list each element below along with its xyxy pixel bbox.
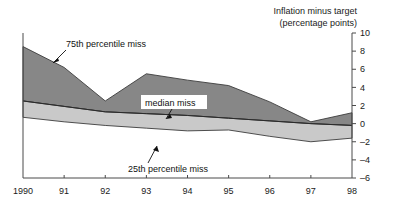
chart-bands [23,47,352,142]
y-tick-label--6: –6 [360,173,370,183]
inflation-miss-area-chart: 1086420–2–4–6 19909192939495969798 Infla… [0,0,393,208]
p25-annotation-group: 25th percentile miss [128,146,209,174]
median-annotation-label: median miss [145,98,196,108]
p75-annotation-group: 75th percentile miss [53,39,147,63]
y-tick-label-4: 4 [360,83,365,93]
x-tick-label-91: 91 [59,186,69,196]
p75-annotation-label: 75th percentile miss [66,39,147,49]
chart-container: 1086420–2–4–6 19909192939495969798 Infla… [0,0,393,208]
y-tick-label-2: 2 [360,101,365,111]
x-tick-label-98: 98 [347,186,357,196]
chart-title: Inflation minus target [273,6,357,16]
chart-title-group: Inflation minus target (percentage point… [273,6,357,28]
x-tick-label-1990: 1990 [13,186,33,196]
chart-subtitle: (percentage points) [279,18,357,28]
p75-arrowhead-icon [53,58,59,63]
x-tick-label-97: 97 [306,186,316,196]
x-tick-label-95: 95 [224,186,234,196]
x-tick-label-92: 92 [100,186,110,196]
x-tick-label-96: 96 [265,186,275,196]
x-tick-label-94: 94 [182,186,192,196]
y-tick-label-0: 0 [360,119,365,129]
y-axis-ticks: 1086420–2–4–6 [352,28,370,183]
p25-annotation-label: 25th percentile miss [128,164,209,174]
y-tick-label-6: 6 [360,64,365,74]
y-tick-label-8: 8 [360,46,365,56]
x-tick-label-93: 93 [141,186,151,196]
y-tick-label--2: –2 [360,137,370,147]
y-tick-label-10: 10 [360,28,370,38]
y-tick-label--4: –4 [360,155,370,165]
